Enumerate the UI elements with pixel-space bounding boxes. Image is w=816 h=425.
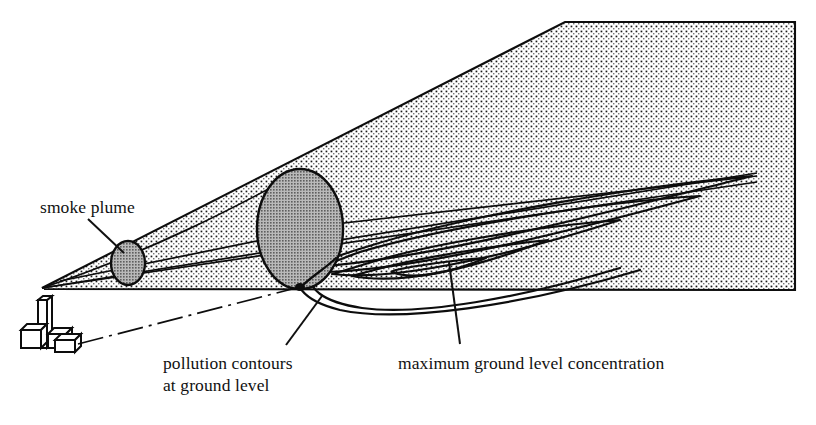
factory-block-left-front [21,330,41,348]
pollution-contours-leader [286,296,322,345]
plume-diagram-svg: smoke plume pollution contours at ground… [0,0,816,425]
label-smoke-plume: smoke plume [40,197,135,217]
plume-cross-section-far [257,169,343,289]
label-maximum-concentration: maximum ground level concentration [398,353,664,373]
plume-diagram-root: smoke plume pollution contours at ground… [0,0,816,425]
factory-chimney-icon [21,296,81,352]
factory-block-right-front [55,340,75,352]
label-pollution-contours-line2: at ground level [163,375,270,395]
plume-cross-section-far-group [257,169,343,291]
plume-cross-section-near [111,241,145,285]
label-pollution-contours-line1: pollution contours [163,353,293,373]
factory-sight-line [78,287,300,344]
smoke-plume-leader [88,219,124,253]
plume-cross-section-near-group [111,241,145,285]
